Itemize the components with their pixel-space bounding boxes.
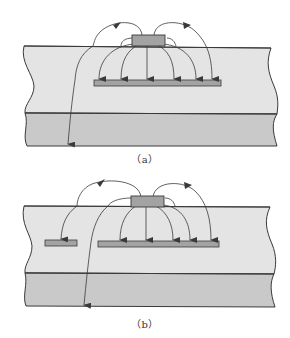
reference-plane (98, 241, 219, 247)
reference-plane (94, 80, 221, 86)
figure-b: （b） (0, 170, 290, 338)
caption-a: （a） (0, 151, 290, 166)
signal-trace (132, 35, 165, 46)
diagram-a (0, 0, 290, 170)
signal-trace (131, 196, 164, 207)
lower-layer (25, 273, 275, 307)
small-adjacent-plane (45, 240, 77, 246)
lower-layer (25, 113, 277, 146)
arrow-head-icon (183, 22, 191, 29)
figure-a: （a） (0, 0, 290, 170)
diagram-b (0, 170, 290, 338)
caption-b: （b） (0, 316, 290, 331)
arrow-head-icon (97, 179, 105, 187)
